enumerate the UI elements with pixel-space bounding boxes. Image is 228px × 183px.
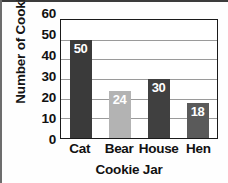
x-axis-title: Cookie Jar [40, 162, 218, 177]
y-tick-20: 20 [42, 90, 56, 105]
page-edge-left [0, 0, 2, 183]
y-tick-50: 50 [42, 27, 56, 42]
chart-figure: Number of Cookies 60 50 40 30 20 10 0 50… [0, 0, 228, 183]
bar-cat[interactable]: 50 [70, 40, 92, 138]
bar-bear[interactable]: 24 [109, 91, 131, 138]
x-tick-bear: Bear [99, 141, 138, 159]
x-tick-hen: Hen [179, 141, 218, 159]
bar-value-house: 30 [152, 81, 166, 95]
plot-area: 50 24 30 18 [60, 19, 218, 139]
y-axis-tick-labels: 60 50 40 30 20 10 0 [26, 13, 56, 139]
y-tick-0: 0 [49, 132, 56, 147]
x-tick-house: House [139, 141, 179, 159]
x-axis-tick-labels: Cat Bear House Hen [60, 141, 218, 159]
y-tick-30: 30 [42, 69, 56, 84]
y-tick-10: 10 [42, 110, 56, 125]
bar-value-cat: 50 [74, 42, 88, 56]
bar-series: 50 24 30 18 [61, 20, 217, 138]
bar-value-hen: 18 [191, 105, 205, 119]
x-tick-cat: Cat [60, 141, 99, 159]
y-tick-40: 40 [42, 47, 56, 62]
page-edge-top [0, 0, 228, 2]
y-tick-60: 60 [42, 6, 56, 21]
bar-hen[interactable]: 18 [187, 103, 209, 138]
bar-house[interactable]: 30 [148, 79, 170, 138]
bar-value-bear: 24 [113, 93, 127, 107]
